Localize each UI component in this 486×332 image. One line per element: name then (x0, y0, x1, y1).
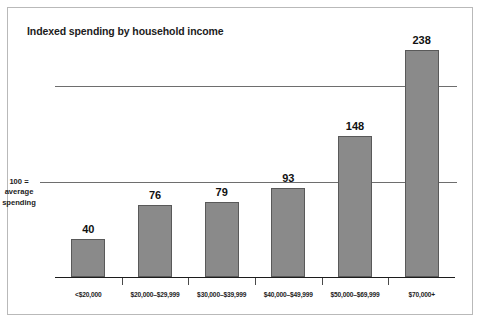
bar-value-label: 148 (325, 120, 385, 132)
bar (338, 136, 372, 277)
category-label: $50,000–$69,999 (322, 291, 389, 298)
bar-value-label: 238 (392, 34, 452, 46)
bar-value-label: 79 (192, 186, 252, 198)
reference-note-line-2: average (0, 187, 38, 198)
x-axis-tick (322, 278, 323, 285)
x-axis-tick (188, 278, 189, 285)
category-label: $30,000–$39,999 (188, 291, 255, 298)
reference-note-line-1: 100 = (0, 177, 38, 188)
bar-value-label: 40 (58, 223, 118, 235)
x-axis-tick (122, 278, 123, 285)
category-label: $40,000–$49,999 (255, 291, 322, 298)
category-label: $70,000+ (388, 291, 455, 298)
gridline-200 (55, 86, 457, 87)
x-axis-tick (388, 278, 389, 285)
gridline-100 (40, 182, 457, 183)
bar (405, 50, 439, 277)
x-axis-tick (255, 278, 256, 285)
plot-area: 40<$20,00076$20,000–$29,99979$30,000–$39… (0, 0, 486, 332)
category-label: $20,000–$29,999 (122, 291, 189, 298)
category-label: <$20,000 (55, 291, 122, 298)
average-reference-note: 100 =averagespending (0, 177, 38, 209)
reference-note-line-3: spending (0, 198, 38, 209)
bar (71, 239, 105, 277)
bar-value-label: 93 (258, 172, 318, 184)
bar (271, 188, 305, 277)
bar (138, 205, 172, 277)
bar-value-label: 76 (125, 189, 185, 201)
bar (205, 202, 239, 277)
